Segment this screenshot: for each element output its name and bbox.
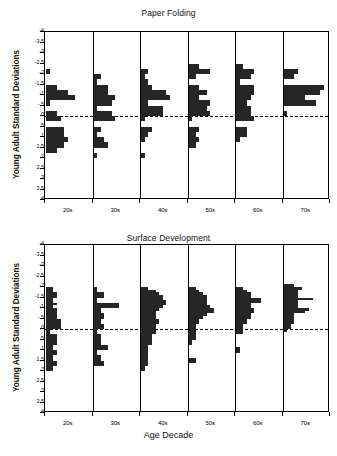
y-tick-label: 3: [6, 388, 44, 393]
x-tick-mark: [92, 412, 93, 416]
x-tick-mark: [139, 199, 140, 203]
y-tick-label: 0: [6, 325, 44, 330]
y-tick-label: 2: [6, 154, 44, 159]
panel-30s: [93, 245, 141, 411]
y-tick-label: 1: [6, 133, 44, 138]
panel-separator: [235, 32, 236, 198]
plot-area-paper-folding: [44, 31, 329, 199]
x-tick-label-30s: 30s: [110, 420, 120, 426]
x-tick-label-20s: 20s: [63, 420, 73, 426]
y-tick-label: -1.5: [6, 81, 44, 86]
y-tick-label: -4: [6, 241, 44, 246]
x-tick-mark: [44, 412, 45, 416]
y-tick-label: -3: [6, 49, 44, 54]
histogram-bar: [236, 350, 240, 353]
y-tick-label: 2.5: [6, 165, 44, 170]
y-tick-label: -.5: [6, 102, 44, 107]
y-tick-label: 2: [6, 367, 44, 372]
panel-60s: [235, 245, 283, 411]
x-axis-label: Age Decade: [0, 430, 337, 440]
x-axis-ticks-bottom: 20s30s40s50s60s70s: [0, 0, 337, 24]
y-tick-label: 1.5: [6, 357, 44, 362]
histogram-bar: [284, 329, 288, 332]
x-tick-mark: [44, 199, 45, 203]
y-tick-label: -3: [6, 262, 44, 267]
panel-40s: [140, 32, 188, 198]
x-tick-mark: [329, 412, 330, 416]
panel-60s: [235, 32, 283, 198]
panel-50s: [188, 245, 236, 411]
histogram-bar: [141, 116, 145, 121]
x-tick-label-40s: 40s: [158, 420, 168, 426]
histogram-bar: [284, 111, 288, 116]
y-tick-label: 1.5: [6, 144, 44, 149]
y-tick-label: -1: [6, 304, 44, 309]
y-tick-label: 3: [6, 175, 44, 180]
panel-separator: [283, 245, 284, 411]
y-tick-label: 1: [6, 346, 44, 351]
y-tick-label: -2.5: [6, 60, 44, 65]
y-tick-label: -2: [6, 70, 44, 75]
panel-30s: [93, 32, 141, 198]
plot-area-surface-development: [44, 244, 329, 412]
histogram-bar: [236, 332, 243, 335]
x-tick-mark: [139, 412, 140, 416]
histogram-bar: [94, 153, 98, 158]
x-tick-label-60s: 60s: [253, 207, 263, 213]
x-tick-label-30s: 30s: [110, 207, 120, 213]
y-tick-label: 3.5: [6, 186, 44, 191]
histogram-bar: [141, 368, 145, 371]
y-tick-label: -3.5: [6, 39, 44, 44]
histogram-bar: [94, 363, 105, 366]
y-axis-ticks-bottom: -4-3.5-3-2.5-2-1.5-1-.50.511.522.533.54: [0, 244, 44, 412]
x-tick-mark: [329, 199, 330, 203]
x-tick-label-50s: 50s: [205, 420, 215, 426]
x-tick-label-40s: 40s: [158, 207, 168, 213]
y-tick-label: .5: [6, 123, 44, 128]
x-tick-mark: [282, 412, 283, 416]
histogram-bar: [141, 153, 145, 158]
panel-70s: [283, 32, 331, 198]
panel-separator: [283, 32, 284, 198]
chart-title-surface-development: Surface Development: [0, 233, 337, 243]
histogram-bar: [189, 342, 193, 345]
y-tick-label: 4: [6, 196, 44, 201]
panel-separator: [93, 32, 94, 198]
histogram-bar: [46, 116, 61, 121]
panel-separator: [188, 245, 189, 411]
panel-separator: [140, 32, 141, 198]
y-tick-label: 2.5: [6, 378, 44, 383]
histogram-bar: [284, 74, 295, 79]
y-tick-label: .5: [6, 336, 44, 341]
y-axis-ticks-top: -4-3.5-3-2.5-2-1.5-1-.50.511.522.533.54: [0, 31, 44, 199]
x-tick-mark: [187, 412, 188, 416]
panel-20s: [45, 32, 93, 198]
y-tick-label: 4: [6, 409, 44, 414]
y-tick-label: -1.5: [6, 294, 44, 299]
histogram-bar: [46, 100, 50, 105]
y-tick-label: 0: [6, 112, 44, 117]
x-tick-mark: [282, 199, 283, 203]
x-tick-mark: [234, 199, 235, 203]
histogram-bar: [94, 116, 116, 121]
histogram-bar: [46, 69, 50, 74]
histogram-bar: [46, 148, 57, 153]
histogram-bar: [46, 95, 75, 100]
y-tick-label: 3.5: [6, 399, 44, 404]
y-tick-label: -2.5: [6, 273, 44, 278]
x-tick-mark: [92, 199, 93, 203]
panel-separator: [93, 245, 94, 411]
histogram-bar: [189, 116, 193, 121]
histogram-bar: [141, 137, 145, 142]
y-tick-label: -2: [6, 283, 44, 288]
x-tick-mark: [234, 412, 235, 416]
histogram-bar: [189, 361, 196, 364]
y-tick-label: -3.5: [6, 252, 44, 257]
figure-root: Paper Folding Young Adult Standard Devia…: [0, 0, 337, 456]
y-tick-label: -4: [6, 28, 44, 33]
histogram-bar: [46, 368, 53, 371]
panel-separator: [188, 32, 189, 198]
panel-40s: [140, 245, 188, 411]
y-tick-label: -.5: [6, 315, 44, 320]
x-tick-label-70s: 70s: [300, 420, 310, 426]
